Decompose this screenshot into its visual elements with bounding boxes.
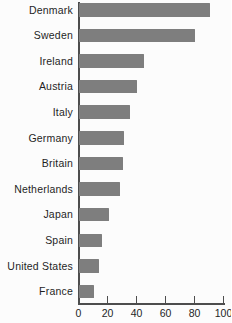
bar bbox=[79, 157, 123, 171]
category-label: Japan bbox=[0, 207, 73, 221]
bar bbox=[79, 285, 94, 299]
bar bbox=[79, 182, 120, 196]
category-label: Austria bbox=[0, 79, 73, 93]
x-axis-tick bbox=[107, 296, 109, 304]
category-label: France bbox=[0, 284, 73, 298]
x-axis-tick-label: 60 bbox=[151, 307, 181, 319]
category-label: Spain bbox=[0, 233, 73, 247]
x-axis-tick bbox=[165, 296, 167, 304]
category-label: Ireland bbox=[0, 54, 73, 68]
category-label: Italy bbox=[0, 105, 73, 119]
bar bbox=[79, 54, 144, 68]
x-axis-tick-label: 20 bbox=[93, 307, 123, 319]
x-axis-tick bbox=[136, 296, 138, 304]
x-axis-tick bbox=[194, 296, 196, 304]
x-axis-tick-label: 40 bbox=[122, 307, 152, 319]
bar bbox=[79, 80, 137, 94]
x-axis-tick-label: 0 bbox=[64, 307, 94, 319]
bar bbox=[79, 29, 195, 43]
bar bbox=[79, 131, 124, 145]
bar bbox=[79, 259, 99, 273]
x-axis-tick-label: 100 bbox=[209, 307, 232, 319]
bar bbox=[79, 234, 102, 248]
bar bbox=[79, 105, 130, 119]
category-label: Germany bbox=[0, 131, 73, 145]
x-axis-tick-label: 80 bbox=[180, 307, 210, 319]
bar bbox=[79, 3, 210, 17]
category-label: United States bbox=[0, 259, 73, 273]
category-label: Britain bbox=[0, 156, 73, 170]
x-axis-line bbox=[78, 303, 225, 305]
bar-chart: DenmarkSwedenIrelandAustriaItalyGermanyB… bbox=[0, 0, 231, 323]
category-label: Netherlands bbox=[0, 182, 73, 196]
category-label: Denmark bbox=[0, 3, 73, 17]
x-axis-tick bbox=[223, 296, 225, 304]
category-label: Sweden bbox=[0, 28, 73, 42]
bar bbox=[79, 208, 109, 222]
